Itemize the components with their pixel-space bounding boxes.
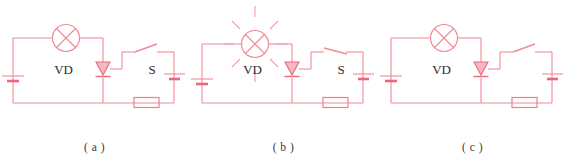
diode-icon-b — [285, 62, 300, 77]
diode-label-a: VD — [54, 62, 73, 77]
wire-branch-b — [292, 52, 363, 103]
diode-label-c: VD — [432, 62, 451, 77]
lamp-icon-a — [53, 25, 80, 52]
circuit-panel-a: VD S ( a ) — [0, 0, 189, 157]
circuit-panel-c: VD ( c ) — [378, 0, 567, 157]
switch-label-a: S — [148, 62, 155, 77]
switch-icon-b[interactable] — [324, 48, 363, 54]
diode-label-b: VD — [243, 62, 262, 77]
switch-icon-c[interactable] — [513, 44, 552, 52]
switch-icon-a[interactable] — [135, 44, 174, 52]
panel-caption-c: ( c ) — [378, 141, 567, 153]
wire-branch-c — [481, 52, 552, 103]
diode-icon-a — [96, 62, 111, 77]
switch-label-b: S — [337, 62, 344, 77]
lamp-icon-c — [431, 25, 458, 52]
wire-branch-a — [103, 52, 174, 103]
circuit-panel-b: VD S ( b ) — [189, 0, 378, 157]
circuit-figure: VD S ( a ) — [0, 0, 567, 157]
panel-caption-b: ( b ) — [189, 141, 378, 153]
lamp-icon-b — [242, 31, 269, 58]
diode-icon-c — [474, 62, 489, 77]
panel-caption-a: ( a ) — [0, 141, 189, 153]
